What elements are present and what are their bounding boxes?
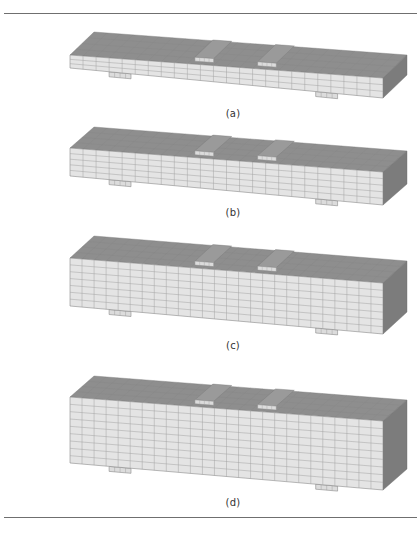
caption-d: (d) bbox=[226, 497, 241, 508]
caption-c: (c) bbox=[226, 340, 240, 351]
beam-model-c bbox=[70, 236, 407, 335]
bottom-rule bbox=[4, 517, 417, 518]
beam-model-d bbox=[70, 376, 407, 491]
beam-model-a bbox=[70, 32, 407, 99]
caption-b: (b) bbox=[226, 207, 241, 218]
caption-a: (a) bbox=[226, 108, 241, 119]
beam-figure bbox=[0, 0, 417, 538]
beam-model-b bbox=[70, 127, 407, 206]
